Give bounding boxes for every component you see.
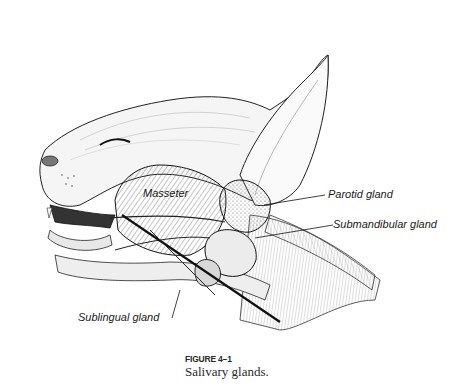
label-parotid-gland: Parotid gland [328, 188, 393, 200]
sublingual-leader [172, 290, 180, 318]
nose [42, 156, 58, 166]
label-masseter: Masseter [143, 187, 188, 199]
figure-caption: Salivary glands. [185, 364, 269, 380]
figure-number: FIGURE 4–1 [185, 354, 232, 364]
label-sublingual-gland: Sublingual gland [78, 311, 159, 323]
tongue [48, 230, 112, 250]
anatomical-illustration [0, 0, 470, 388]
label-submandibular-gland: Submandibular gland [333, 218, 437, 230]
neck-muscles [240, 215, 380, 330]
